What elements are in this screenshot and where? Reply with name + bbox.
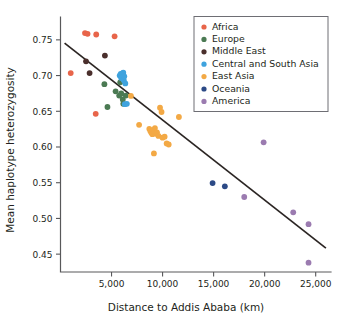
y-tick-label: 0.70 [32, 71, 52, 81]
y-axis-title: Mean haplotype heterozygosity [4, 67, 16, 233]
data-point [176, 114, 182, 120]
x-tick-label: 15,000 [198, 279, 230, 289]
legend-label: Central and South Asia [212, 58, 319, 69]
data-point [128, 93, 134, 99]
data-point [306, 260, 312, 266]
false [201, 99, 206, 104]
data-point [102, 53, 108, 59]
data-point [105, 104, 111, 110]
legend-item-middle-east[interactable]: Middle East [201, 45, 266, 56]
data-point [124, 101, 130, 107]
x-tick-label: 25,000 [300, 279, 332, 289]
legend-label: Oceania [212, 83, 250, 94]
data-point [121, 73, 127, 79]
data-point [166, 142, 172, 148]
x-axis-title: Distance to Addis Ababa (km) [108, 301, 264, 313]
data-point [159, 109, 165, 115]
false [201, 37, 206, 42]
legend-label: East Asia [212, 70, 255, 81]
data-point [68, 70, 74, 76]
data-point [222, 183, 228, 189]
data-point [162, 134, 168, 140]
y-tick-label: 0.60 [32, 142, 52, 152]
data-point [136, 122, 142, 128]
x-tick-label: 10,000 [147, 279, 179, 289]
legend-label: America [212, 95, 250, 106]
y-tick-label: 0.50 [32, 214, 52, 224]
false [201, 74, 206, 79]
data-point [87, 70, 93, 76]
data-point [93, 111, 99, 117]
legend-label: Africa [212, 21, 239, 32]
data-point [85, 31, 91, 37]
false [201, 24, 206, 29]
data-point [118, 91, 124, 97]
y-tick-label: 0.65 [32, 107, 52, 117]
legend-item-central-and-south-asia[interactable]: Central and South Asia [201, 58, 318, 69]
x-tick-label: 5,000 [99, 279, 125, 289]
legend-label: Europe [212, 33, 245, 44]
data-point [93, 32, 99, 38]
y-tick-label: 0.45 [32, 250, 52, 260]
data-point [151, 151, 157, 157]
y-tick-label: 0.55 [32, 178, 52, 188]
y-tick-label: 0.75 [32, 35, 52, 45]
scatter-plot-figure: 0.450.500.550.600.650.700.755,00010,0001… [0, 0, 342, 319]
x-tick-label: 20,000 [249, 279, 281, 289]
data-point [112, 33, 118, 39]
false [201, 86, 206, 91]
data-point [83, 58, 89, 64]
data-point [306, 221, 312, 227]
plot-canvas: 0.450.500.550.600.650.700.755,00010,0001… [0, 0, 342, 319]
legend-label: Middle East [212, 45, 266, 56]
data-point [101, 81, 107, 87]
data-point [290, 209, 296, 215]
legend[interactable]: AfricaEuropeMiddle EastCentral and South… [194, 17, 328, 112]
data-point [122, 81, 128, 87]
data-point [241, 194, 247, 200]
data-point [261, 139, 267, 145]
false [201, 62, 206, 67]
false [201, 49, 206, 54]
data-point [210, 180, 216, 186]
